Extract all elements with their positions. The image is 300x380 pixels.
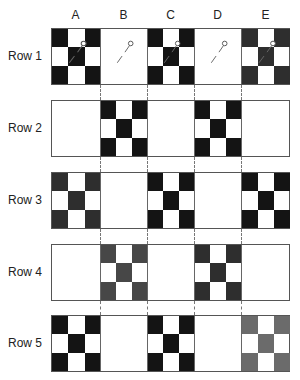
pattern-square <box>179 210 194 228</box>
block-b3 <box>100 173 147 228</box>
block-b1 <box>100 29 147 84</box>
pattern-square <box>242 29 258 47</box>
block-c3 <box>147 173 194 228</box>
thread-connector <box>100 85 101 100</box>
thread-connector <box>241 229 242 244</box>
thread-connector <box>241 85 242 100</box>
pattern-square <box>52 173 68 191</box>
pattern-square <box>274 353 290 371</box>
block-b5 <box>100 316 147 371</box>
pattern-square <box>68 191 84 209</box>
column-label-e: E <box>242 8 290 22</box>
block-d5 <box>194 316 241 371</box>
pattern-square <box>195 101 210 119</box>
pattern-square <box>258 334 274 352</box>
thread-connector <box>194 301 195 315</box>
block-a1 <box>52 29 101 84</box>
thread-connector <box>147 301 148 315</box>
row-label-1: Row 1 <box>8 49 48 63</box>
thread-connector <box>147 157 148 172</box>
thread-connector <box>100 229 101 244</box>
row-strip-5 <box>51 315 290 372</box>
row-label-4: Row 4 <box>8 265 48 279</box>
pattern-square <box>210 119 225 137</box>
pattern-square <box>52 66 68 84</box>
pattern-square <box>179 316 194 334</box>
pattern-square <box>258 191 274 209</box>
pattern-square <box>132 101 147 119</box>
block-c5 <box>147 316 194 371</box>
row-strip-2 <box>51 100 290 157</box>
thread-connector <box>194 157 195 172</box>
row-label-2: Row 2 <box>8 121 48 135</box>
pattern-square <box>85 353 101 371</box>
block-b4 <box>100 245 147 300</box>
column-label-b: B <box>100 8 148 22</box>
pattern-square <box>148 210 163 228</box>
block-d4 <box>194 245 241 300</box>
column-label-c: C <box>147 8 195 22</box>
pattern-square <box>242 316 258 334</box>
pattern-square <box>274 173 290 191</box>
pattern-square <box>101 282 116 300</box>
block-e5 <box>241 316 290 371</box>
block-a4 <box>52 245 101 300</box>
thread-connector <box>194 85 195 100</box>
thread-connector <box>100 157 101 172</box>
block-a5 <box>52 316 101 371</box>
pattern-square <box>274 316 290 334</box>
row-label-5: Row 5 <box>8 336 48 350</box>
pattern-square <box>195 282 210 300</box>
pattern-square <box>163 191 178 209</box>
pattern-square <box>52 353 68 371</box>
thread-connector <box>147 229 148 244</box>
pattern-square <box>274 210 290 228</box>
pattern-square <box>85 29 101 47</box>
pattern-square <box>179 29 194 47</box>
row-strip-3 <box>51 172 290 229</box>
block-d2 <box>194 101 241 156</box>
block-c1 <box>147 29 194 84</box>
pattern-square <box>52 210 68 228</box>
pattern-square <box>242 353 258 371</box>
pattern-square <box>132 245 147 263</box>
pattern-square <box>52 29 68 47</box>
pattern-square <box>132 282 147 300</box>
pattern-square <box>101 138 116 156</box>
pattern-square <box>52 316 68 334</box>
pattern-square <box>85 66 101 84</box>
thread-connector <box>194 229 195 244</box>
pattern-square <box>274 66 290 84</box>
thread-connector <box>241 301 242 315</box>
pattern-square <box>148 29 163 47</box>
column-label-d: D <box>194 8 242 22</box>
pin-icon <box>101 29 147 84</box>
row-strip-1 <box>51 28 290 85</box>
pattern-square <box>242 210 258 228</box>
pattern-square <box>116 119 131 137</box>
pattern-square <box>163 334 178 352</box>
pin-icon <box>195 29 241 84</box>
row-strip-4 <box>51 244 290 301</box>
thread-connector <box>147 85 148 100</box>
pattern-square <box>116 263 131 281</box>
pattern-square <box>132 138 147 156</box>
block-c4 <box>147 245 194 300</box>
block-d3 <box>194 173 241 228</box>
pattern-square <box>85 210 101 228</box>
block-a3 <box>52 173 101 228</box>
pattern-square <box>148 316 163 334</box>
row-label-3: Row 3 <box>8 193 48 207</box>
block-a2 <box>52 101 101 156</box>
pattern-square <box>210 263 225 281</box>
pattern-square <box>179 173 194 191</box>
block-e1 <box>241 29 290 84</box>
pattern-square <box>148 353 163 371</box>
pattern-square <box>101 245 116 263</box>
block-e3 <box>241 173 290 228</box>
pattern-square <box>68 334 84 352</box>
block-b2 <box>100 101 147 156</box>
thread-connector <box>241 157 242 172</box>
pattern-square <box>226 282 241 300</box>
pattern-square <box>148 66 163 84</box>
